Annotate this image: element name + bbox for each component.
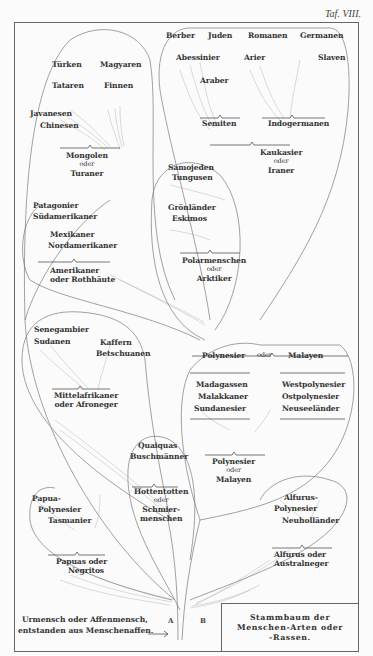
brace-indogermanen: [262, 115, 325, 118]
leaf-patagonier: Patagonier: [33, 201, 78, 210]
group-arktiker-name: Polarmenschen: [182, 256, 246, 265]
brace-arktiker: [180, 250, 240, 253]
brace-semiten: [200, 115, 240, 118]
legend-line-1: Stammbaum der: [237, 613, 343, 623]
group-mongolen-alt: Turaner: [66, 169, 108, 178]
leaf-sundanesier: Sundanesier: [194, 404, 246, 413]
group-negritos-name: Papuas oder: [56, 557, 107, 566]
group-mongolen-name: Mongolen: [66, 151, 108, 160]
leaf-polynesier-papua: Polynesier: [38, 505, 81, 514]
leaf-berber: Berber: [166, 31, 195, 40]
leaf-chinesen: Chinesen: [40, 121, 79, 130]
group-amerikaner-name: Amerikaner: [50, 266, 115, 275]
branch-malayen-loop: [181, 343, 354, 520]
leaf-suedamerikaner: Südamerikaner: [33, 212, 97, 221]
group-mongolen: Mongolen oder Turaner: [66, 151, 108, 178]
leaf-senegambier: Senegambier: [34, 325, 89, 334]
heading-oder: oder: [257, 351, 272, 360]
group-kaukasier-name: Kaukasier: [260, 148, 302, 157]
leaf-javanesen: Javanesen: [30, 109, 72, 118]
legend-box: Stammbaum der Menschen-Arten oder -Rasse…: [221, 603, 358, 651]
group-hottentotten-alt2: menschen: [134, 514, 188, 523]
group-amerikaner: Amerikaner oder Rothhäute: [50, 266, 115, 284]
heading-malayen: Malayen: [288, 351, 323, 360]
leaf-tuerken: Türken: [52, 60, 82, 69]
subgroup-indogermanen: Indogermanen: [268, 119, 329, 128]
leaf-mexikaner: Mexikaner: [50, 230, 94, 239]
leaf-araber: Araber: [200, 76, 228, 85]
leaf-tasmanier: Tasmanier: [48, 516, 91, 525]
group-hottentotten-name: Hottentotten: [134, 487, 188, 496]
leaf-magyaren: Magyaren: [100, 60, 142, 69]
leaf-eskimos: Eskimos: [172, 214, 207, 223]
leaf-sudanen: Sudanen: [34, 337, 70, 346]
legend-line-3: -Rassen.: [237, 633, 343, 643]
branch-hottentotten-loop: [128, 436, 195, 610]
origin-line-2: entstanden aus Menschenaffen.: [18, 625, 153, 636]
subgroup-semiten: Semiten: [202, 119, 236, 128]
brace-negritos: [48, 552, 105, 555]
leaf-nordamerikaner: Nordamerikaner: [48, 241, 117, 250]
group-arktiker-oder: oder: [182, 265, 246, 274]
origin-caption: Urmensch oder Affenmensch, entstanden au…: [18, 614, 153, 636]
leaf-buschmaenner: Buschmänner: [130, 452, 188, 461]
leaf-madagassen: Madagassen: [196, 380, 248, 389]
group-australneger-name: Alfurus oder: [274, 550, 328, 559]
heading-polynesier: Polynesier: [202, 351, 245, 360]
group-hottentotten-alt1: Schmier-: [134, 505, 188, 514]
group-negritos-alt: Negritos: [56, 566, 107, 575]
brace-australneger: [272, 545, 332, 548]
brace-mongolen: [60, 145, 120, 148]
origin-line-1: Urmensch oder Affenmensch,: [18, 614, 153, 625]
leaf-tungusen: Tungusen: [172, 173, 213, 182]
group-malayen: Polynesier oder Malayen: [212, 457, 255, 484]
leaf-kaffern: Kaffern: [100, 338, 132, 347]
leaf-romanen: Romanen: [248, 31, 288, 40]
leaf-juden: Juden: [208, 31, 232, 40]
group-malayen-name: Polynesier: [212, 457, 255, 466]
leaf-papua: Papua-: [32, 494, 61, 503]
legend-line-2: Menschen-Arten oder: [237, 623, 343, 633]
group-hottentotten-oder: oder: [134, 496, 188, 505]
group-negritos: Papuas oder Negritos: [56, 557, 107, 575]
group-afroneger: Mittelafrikaner oder Afroneger: [54, 391, 118, 409]
leaf-groenlaender: Grönländer: [168, 203, 216, 212]
branch-australneger-loop: [190, 476, 347, 600]
group-hottentotten: Hottentotten oder Schmier- menschen: [134, 487, 188, 523]
group-kaukasier-alt: Iraner: [260, 166, 302, 175]
leaf-malakkaner: Malakkaner: [198, 392, 248, 401]
brace-kaukasier: [210, 142, 290, 145]
leaf-finnen: Finnen: [104, 81, 133, 90]
leaf-samojeden: Samojeden: [168, 163, 214, 172]
group-afroneger-alt: oder Afroneger: [54, 400, 118, 409]
group-amerikaner-alt: oder Rothhäute: [50, 275, 115, 284]
group-malayen-oder: oder: [212, 466, 255, 475]
leaf-westpolynesier: Westpolynesier: [282, 380, 345, 389]
brace-malayen: [205, 452, 265, 455]
root-label-b: B: [200, 616, 206, 625]
leaf-abessinier: Abessinier: [176, 53, 220, 62]
root-label-a: A: [168, 616, 173, 625]
leaf-quaiquas: Quaiquas: [138, 441, 177, 450]
leaf-alfurus: Alfurus-: [284, 493, 318, 502]
leaf-polynesier-alfurus: Polynesier: [274, 504, 317, 513]
group-malayen-alt: Malayen: [212, 475, 255, 484]
brace-amerikaner: [38, 259, 110, 262]
group-australneger-alt: Australneger: [274, 559, 328, 568]
leaf-tataren: Tataren: [52, 81, 84, 90]
group-afroneger-name: Mittelafrikaner: [54, 391, 118, 400]
leaf-neuseelaender: Neuseeländer: [282, 404, 340, 413]
group-kaukasier: Kaukasier oder Iraner: [260, 148, 302, 175]
branch-arktiker-loop: [151, 163, 240, 340]
leaf-neuhollaender: Neuholländer: [282, 516, 339, 525]
group-australneger: Alfurus oder Australneger: [274, 550, 328, 568]
group-mongolen-oder: oder: [66, 160, 108, 169]
group-arktiker: Polarmenschen oder Arktiker: [182, 256, 246, 283]
leaf-betschuanen: Betschuanen: [96, 349, 150, 358]
leaf-ostpolynesier: Ostpolynesier: [282, 392, 339, 401]
group-kaukasier-oder: oder: [260, 157, 302, 166]
leaf-slaven: Slaven: [318, 53, 345, 62]
leaf-germanen: Germanen: [300, 31, 343, 40]
group-arktiker-alt: Arktiker: [182, 274, 246, 283]
leaf-arier: Arier: [244, 53, 265, 62]
